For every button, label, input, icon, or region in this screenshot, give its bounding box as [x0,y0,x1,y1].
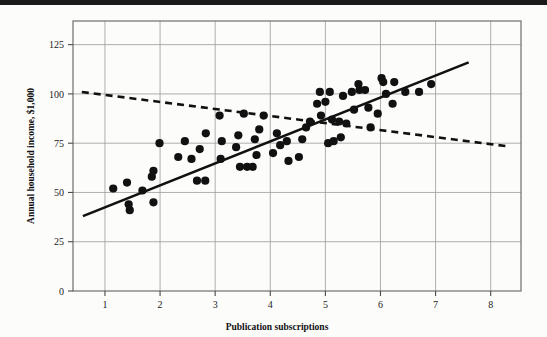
data-point [269,149,277,157]
data-point [217,155,225,163]
chart-canvas: 12345678 0255075100125 Publication subsc… [0,0,547,337]
x-tick-label: 3 [213,299,218,310]
x-tick-label: 4 [268,299,273,310]
y-tick-label: 100 [49,89,64,100]
data-point [366,123,374,131]
data-point [389,100,397,108]
data-point [335,117,343,125]
data-point [317,111,325,119]
x-tick-label: 5 [323,299,328,310]
data-point [350,106,358,114]
data-point [342,119,350,127]
data-point [174,153,182,161]
data-point [126,206,134,214]
data-point [255,125,263,133]
data-point [284,157,292,165]
x-tick-label: 2 [158,299,163,310]
data-point [295,153,303,161]
data-point [316,88,324,96]
scatter-chart: 12345678 0255075100125 Publication subsc… [0,0,547,337]
figure-page: 12345678 0255075100125 Publication subsc… [0,0,547,337]
data-point [252,151,260,159]
data-point [202,129,210,137]
x-axis-title: Publication subscriptions [226,322,329,332]
data-point [109,184,117,192]
data-point [240,110,248,118]
y-tick-labels: 0255075100125 [49,39,64,296]
data-point [201,177,209,185]
data-point [149,167,157,175]
dashed-trend-line [82,92,506,146]
data-point [234,131,242,139]
data-point [427,80,435,88]
data-point [364,104,372,112]
data-points [109,74,435,214]
data-point [236,163,244,171]
data-point [401,88,409,96]
data-point [232,143,240,151]
x-tick-label: 1 [102,299,107,310]
data-point [187,155,195,163]
data-point [374,110,382,118]
data-point [379,78,387,86]
y-tick-label: 75 [54,138,64,149]
data-point [330,137,338,145]
y-tick-label: 0 [59,286,64,297]
y-tick-label: 25 [54,236,64,247]
data-point [382,90,390,98]
data-point [181,137,189,145]
data-point [361,86,369,94]
data-point [348,88,356,96]
x-tick-label: 7 [433,299,438,310]
data-point [273,129,281,137]
data-point [298,135,306,143]
data-point [218,137,226,145]
data-point [390,78,398,86]
data-point [215,111,223,119]
data-point [415,88,423,96]
x-tick-label: 6 [378,299,383,310]
data-point [313,100,321,108]
data-point [155,139,163,147]
y-axis-ticks [68,45,73,291]
y-tick-label: 50 [54,187,64,198]
x-axis-ticks [105,291,491,296]
data-point [260,111,268,119]
x-tick-label: 8 [488,299,493,310]
data-point [306,117,314,125]
y-tick-label: 125 [49,39,64,50]
y-axis-title: Annual household income, $1,000 [26,88,36,224]
data-point [249,163,257,171]
data-point [123,179,131,187]
data-point [328,115,336,123]
data-point [321,98,329,106]
data-point [138,186,146,194]
data-point [283,137,291,145]
data-point [337,133,345,141]
data-point [251,135,259,143]
data-point [339,92,347,100]
data-point [149,198,157,206]
data-point [196,145,204,153]
x-tick-labels: 12345678 [102,299,493,310]
data-point [326,88,334,96]
data-point [193,177,201,185]
